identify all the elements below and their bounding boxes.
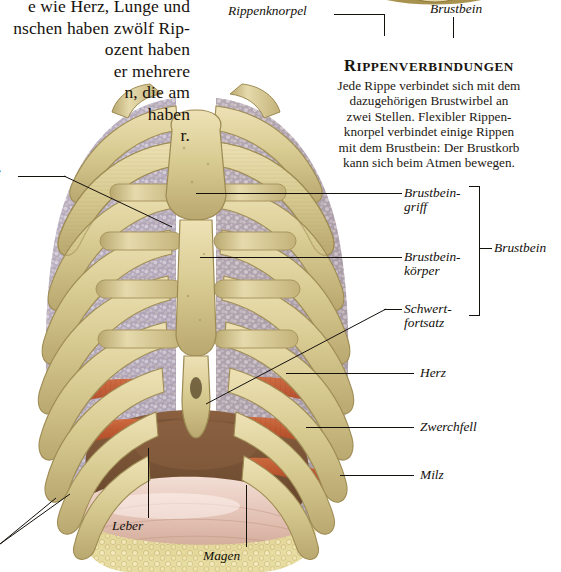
leader-brustbeingriff	[196, 193, 384, 194]
label-rippenknorpel: Rippenknorpel	[228, 4, 307, 19]
leader-schwertfortsatz-diagonal	[200, 300, 386, 410]
label-magen: Magen	[203, 549, 240, 564]
leader-brustbeingriff-stub	[384, 193, 402, 194]
body-text-line: e wie Herz, Lunge und	[0, 0, 190, 18]
brustbein-group-bracket-stub	[479, 248, 492, 249]
body-text-column: e wie Herz, Lunge und nschen haben zwölf…	[0, 0, 190, 147]
leader-brustbeinkoerper-stub	[384, 257, 402, 258]
sidebar-paragraph: Jede Rippe verbindet sich mit dem dazuge…	[300, 78, 558, 170]
sidebar-paragraph-line: knorpel verbindet einige Rippen	[300, 124, 558, 139]
label-brustbeinkoerper-line2: körper	[404, 264, 440, 279]
leader-milz	[340, 475, 414, 476]
sidebar-info-block: RIPPENVERBINDUNGEN Jede Rippe verbindet …	[300, 56, 558, 170]
leader-lunge	[18, 176, 66, 177]
leader-herz	[286, 373, 414, 374]
sidebar-paragraph-line: Jede Rippe verbindet sich mit dem	[300, 78, 558, 93]
leader-brustbein-inset	[453, 17, 454, 38]
body-text-line: r.	[0, 125, 190, 147]
leader-lunge-diagonal	[64, 175, 174, 230]
label-milz: Milz	[420, 468, 444, 483]
label-zwerchfell: Zwerchfell	[420, 420, 477, 435]
body-text-line: haben	[0, 104, 190, 126]
sidebar-paragraph-line: kann sich beim Atmen bewegen.	[300, 155, 558, 170]
label-lunge: ge	[0, 165, 1, 180]
leader-magen	[246, 485, 247, 547]
leader-schwertfortsatz-stub	[384, 309, 402, 310]
leader-rippenknorpel	[334, 14, 384, 15]
leader-leber	[148, 448, 149, 518]
leader-rippenknorpel-v	[384, 14, 385, 36]
sidebar-paragraph-line: zwei Stellen. Flexibler Rippen-	[300, 109, 558, 124]
label-brustbein-inset: Brustbein	[430, 2, 482, 17]
label-leber: Leber	[112, 519, 143, 534]
body-text-line: n, die am	[0, 82, 190, 104]
sidebar-heading: RIPPENVERBINDUNGEN	[300, 56, 558, 76]
brustbein-group-bracket	[469, 186, 480, 316]
label-schwertfortsatz-line2: fortsatz	[404, 316, 444, 331]
sidebar-paragraph-line: dazugehörigen Brustwirbel an	[300, 93, 558, 108]
sidebar-paragraph-line: mit dem Brustbein: Der Brustkorb	[300, 140, 558, 155]
leader-clipped-bottom-left	[0, 492, 96, 546]
leader-zwerchfell	[306, 427, 414, 428]
sidebar-heading-initial: R	[344, 56, 356, 75]
label-brustbeingriff-line2: griff	[404, 200, 427, 215]
body-text-line: nschen haben zwölf Rip-	[0, 18, 190, 40]
sidebar-heading-rest: IPPENVERBINDUNGEN	[357, 59, 514, 74]
page-canvas: e wie Herz, Lunge und nschen haben zwölf…	[0, 0, 561, 572]
body-text-line: er mehrere	[0, 61, 190, 83]
label-herz: Herz	[420, 366, 446, 381]
leader-brustbeinkoerper	[200, 257, 384, 258]
label-brustbein-group: Brustbein	[494, 241, 546, 256]
body-text-line: ozent haben	[0, 39, 190, 61]
